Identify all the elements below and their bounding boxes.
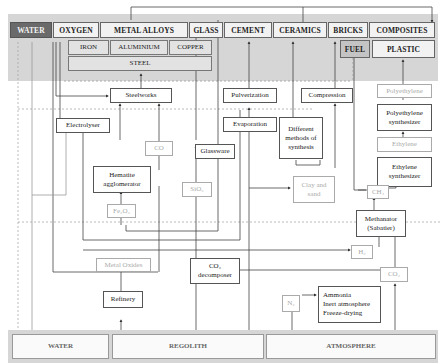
product-metal-alloys: METAL ALLOYS <box>100 22 188 38</box>
process-evaporation: Evaporation <box>223 117 277 132</box>
product-cement: CEMENT <box>224 22 272 38</box>
product-steel: STEEL <box>68 56 212 71</box>
source-atmosphere: ATMOSPHERE <box>266 334 436 359</box>
product-glass: GLASS <box>189 22 223 38</box>
source-regolith: REGOLITH <box>112 334 264 359</box>
process-clay-and-sand: Clay and sand <box>293 176 335 203</box>
process-steelworks: Steelworks <box>110 88 172 103</box>
process-polyethylene: Polyethylene <box>377 84 432 98</box>
process-ethylene: Ethylene <box>377 137 432 152</box>
process-co2-decomposer: CO₂ decomposer <box>190 258 240 284</box>
process-sio2: SiO₂ <box>182 182 212 197</box>
source-water: WATER <box>12 334 109 359</box>
process-compression: Compression <box>301 88 353 103</box>
process-ammonia-uses: Ammonia Inert atmosphere Freeze-drying <box>318 286 381 323</box>
product-copper: COPPER <box>169 40 212 55</box>
process-n2: N₂ <box>282 295 300 312</box>
process-fe2o3: Fe₂O₃ <box>107 204 136 218</box>
product-iron: IRON <box>68 40 109 55</box>
methods-clay <box>296 160 320 165</box>
process-hematite-agglomerator: Hematite agglomerator <box>93 166 151 193</box>
isru-process-diagram: WATER OXYGEN METAL ALLOYS GLASS CEMENT C… <box>0 0 447 364</box>
product-water: WATER <box>10 22 52 38</box>
process-glassware: Glassware <box>195 144 235 159</box>
process-methanator: Methanator (Sabatier) <box>356 210 406 237</box>
process-pulverization: Pulverization <box>223 88 277 103</box>
process-refinery: Refinery <box>103 291 143 308</box>
alloys-to-composites <box>131 7 432 22</box>
process-co: CO <box>145 141 173 156</box>
process-metal-oxides: Metal Oxides <box>96 258 151 272</box>
process-h2: H₂ <box>351 245 373 259</box>
process-ethylene-synthesizer: Ethylene synthesizer <box>377 157 432 187</box>
product-composites: COMPOSITES <box>369 22 435 38</box>
product-bricks: BRICKS <box>328 22 368 38</box>
process-polyethylene-synthesizer: Polyethylene synthesizer <box>377 104 432 131</box>
product-ceramics: CERAMICS <box>273 22 327 38</box>
process-ch4: CH₄ <box>367 185 389 199</box>
process-co2: CO₂ <box>380 267 408 282</box>
oxygen-co2-line <box>53 42 158 272</box>
process-different-methods: Different methods of synthesis <box>279 117 323 159</box>
electrolyser-water <box>32 132 66 195</box>
process-electrolyser: Electrolyser <box>56 118 110 133</box>
product-aluminium: ALUMINIUM <box>110 40 168 55</box>
product-plastic: PLASTIC <box>372 40 435 58</box>
product-fuel: FUEL <box>340 40 370 58</box>
product-oxygen: OXYGEN <box>53 22 99 38</box>
